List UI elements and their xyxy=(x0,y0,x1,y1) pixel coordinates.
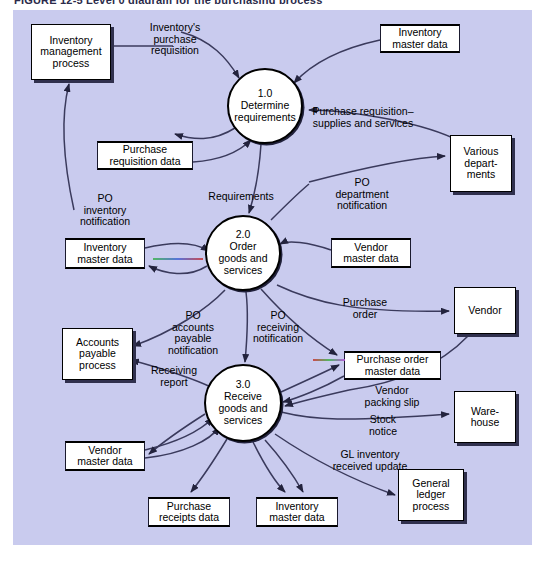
scan-artifact-streak-upper xyxy=(153,258,203,260)
flow-label-stock-notice: Stock notice xyxy=(353,414,413,437)
store-purchase-requisition-data-label: Purchase requisition data xyxy=(109,144,180,167)
entity-general-ledger-process[interactable]: General ledger process xyxy=(398,469,464,521)
store-inventory-master-data-middle[interactable]: Inventory master data xyxy=(65,238,145,269)
store-inventory-master-data-bottom[interactable]: Inventory master data xyxy=(256,497,338,527)
scan-artifact-streak-lower xyxy=(313,359,345,361)
store-purchase-requisition-data[interactable]: Purchase requisition data xyxy=(97,141,193,170)
flow-label-po-department-notification: PO department notification xyxy=(321,177,403,212)
store-inventory-master-data-middle-label: Inventory master data xyxy=(77,242,132,265)
flow-label-requirements: Requirements xyxy=(196,191,286,203)
store-vendor-master-data-middle-label: Vendor master data xyxy=(343,242,398,265)
entity-general-ledger-process-label: General ledger process xyxy=(412,478,449,513)
flow-label-inventorys-purchase-requisition: Inventory's purchase requisition xyxy=(130,22,220,57)
entity-vendor-label: Vendor xyxy=(468,305,501,317)
entity-warehouse[interactable]: Ware- house xyxy=(454,391,516,443)
process-3-receive-goods-and-services[interactable]: 3.0 Receive goods and services xyxy=(204,364,282,442)
entity-warehouse-label: Ware- house xyxy=(471,406,500,429)
flow-label-po-inventory-notification: PO inventory notification xyxy=(65,193,145,228)
process-2-label: 2.0 Order goods and services xyxy=(218,229,267,276)
figure-title: FIGURE 12-5 Level 0 diagram for the purc… xyxy=(14,0,323,4)
entity-various-departments[interactable]: Various depart- ments xyxy=(450,135,512,192)
entity-accounts-payable-process[interactable]: Accounts payable process xyxy=(62,328,133,380)
figure-page: FIGURE 12-5 Level 0 diagram for the purc… xyxy=(0,0,545,565)
flow-label-vendor-packing-slip: Vendor packing slip xyxy=(351,385,433,408)
store-inventory-master-data-top-label: Inventory master data xyxy=(392,27,447,50)
flow-label-purchase-order: Purchase order xyxy=(330,297,400,320)
flow-label-po-accounts-payable-notification: PO accounts payable notification xyxy=(154,310,232,356)
store-vendor-master-data-middle[interactable]: Vendor master data xyxy=(331,238,411,268)
process-1-label: 1.0 Determine requirements xyxy=(234,88,295,123)
entity-inventory-management-process-label: Inventory management process xyxy=(40,35,101,70)
store-vendor-master-data-bottom[interactable]: Vendor master data xyxy=(65,441,145,471)
store-vendor-master-data-bottom-label: Vendor master data xyxy=(77,445,132,468)
store-inventory-master-data-top[interactable]: Inventory master data xyxy=(380,24,460,53)
flow-label-po-receiving-notification: PO receiving notification xyxy=(238,310,318,345)
process-3-label: 3.0 Receive goods and services xyxy=(218,379,267,426)
store-purchase-receipts-data[interactable]: Purchase receipts data xyxy=(148,497,230,527)
entity-various-departments-label: Various depart- ments xyxy=(464,146,499,181)
store-purchase-receipts-data-label: Purchase receipts data xyxy=(159,501,219,524)
store-purchase-order-master-data[interactable]: Purchase order master data xyxy=(344,351,441,380)
diagram-canvas: 1.0 Determine requirements 2.0 Order goo… xyxy=(13,10,532,545)
entity-accounts-payable-process-label: Accounts payable process xyxy=(76,337,119,372)
flow-label-gl-inventory-received-update: GL inventory received update xyxy=(317,449,423,472)
store-purchase-order-master-data-label: Purchase order master data xyxy=(357,354,429,377)
process-1-determine-requirements[interactable]: 1.0 Determine requirements xyxy=(227,68,303,144)
entity-vendor[interactable]: Vendor xyxy=(454,287,516,334)
store-inventory-master-data-bottom-label: Inventory master data xyxy=(269,501,324,524)
flow-label-receiving-report: Receiving report xyxy=(138,365,210,388)
entity-inventory-management-process[interactable]: Inventory management process xyxy=(31,24,111,80)
flow-label-purchase-requisition-supplies-and-services: Purchase requisition– supplies and servi… xyxy=(293,106,433,129)
process-2-order-goods-and-services[interactable]: 2.0 Order goods and services xyxy=(205,215,281,291)
